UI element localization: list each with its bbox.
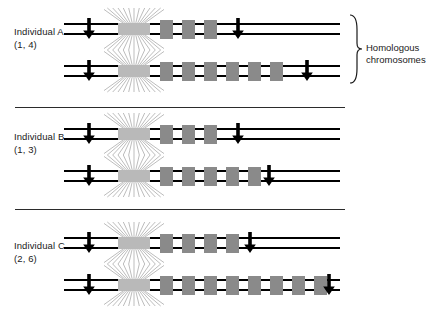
chromosome-a-chr-1 (64, 18, 340, 40)
repeat-band (292, 276, 305, 295)
repeat-band (204, 276, 217, 295)
repeat-band (182, 125, 195, 144)
individual-name: Individual C (14, 240, 65, 251)
repeat-band (204, 20, 217, 39)
centromere-hatch-icon (104, 6, 164, 52)
centromere-region (118, 65, 150, 77)
repeat-band (248, 167, 261, 186)
primer-arrow-right-icon (243, 232, 257, 254)
centromere-region (118, 170, 150, 182)
repeat-band (160, 125, 173, 144)
centromere-hatch-icon (104, 262, 164, 308)
repeat-band (226, 234, 239, 253)
repeat-band (226, 167, 239, 186)
section-divider (15, 209, 345, 210)
repeat-band (160, 276, 173, 295)
homologous-chromosomes-caption: Homologouschromosomes (366, 42, 426, 66)
chromosome-diagram: Individual A(1, 4)Individual B(1, 3)Indi… (0, 0, 440, 317)
centromere-hatch-icon (104, 111, 164, 157)
allele-pair: (1, 4) (14, 39, 94, 52)
primer-arrow-left-icon (82, 165, 96, 187)
primer-arrow-right-icon (231, 123, 245, 145)
individual-name: Individual A (14, 26, 64, 37)
primer-arrow-left-icon (82, 274, 96, 296)
repeat-band (160, 234, 173, 253)
primer-arrow-left-icon (82, 60, 96, 82)
repeat-band (226, 276, 239, 295)
repeat-band (226, 62, 239, 81)
chromosome-b-chr-1 (64, 123, 340, 145)
primer-arrow-left-icon (82, 232, 96, 254)
primer-arrow-right-icon (322, 274, 336, 296)
primer-arrow-right-icon (231, 18, 245, 40)
centromere-region (118, 128, 150, 140)
chromosome-c-chr-1 (64, 232, 340, 254)
repeat-band (160, 62, 173, 81)
group-individual-b: Individual B(1, 3) (0, 113, 440, 209)
centromere-hatch-icon (104, 153, 164, 199)
chromosome-a-chr-2 (64, 60, 340, 82)
centromere-region (118, 237, 150, 249)
individual-name: Individual B (14, 131, 64, 142)
section-divider (15, 107, 345, 108)
repeat-band (248, 276, 261, 295)
repeat-band (204, 167, 217, 186)
centromere-region (118, 23, 150, 35)
repeat-band (182, 167, 195, 186)
repeat-band (270, 276, 283, 295)
homologous-brace-icon (348, 13, 364, 89)
repeat-band (204, 125, 217, 144)
repeat-band (182, 276, 195, 295)
centromere-region (118, 279, 150, 291)
repeat-band (160, 20, 173, 39)
repeat-band (160, 167, 173, 186)
primer-arrow-left-icon (82, 123, 96, 145)
primer-arrow-left-icon (82, 18, 96, 40)
repeat-band (270, 62, 283, 81)
caption-line-1: Homologous (366, 42, 426, 54)
repeat-band (204, 62, 217, 81)
repeat-band (182, 62, 195, 81)
centromere-hatch-icon (104, 220, 164, 266)
chromosome-c-chr-2 (64, 274, 340, 296)
repeat-band (182, 20, 195, 39)
centromere-hatch-icon (104, 48, 164, 94)
allele-pair: (2, 6) (14, 253, 94, 266)
repeat-band (248, 62, 261, 81)
primer-arrow-right-icon (300, 60, 314, 82)
chromosome-b-chr-2 (64, 165, 340, 187)
primer-arrow-right-icon (262, 165, 276, 187)
group-individual-c: Individual C(2, 6) (0, 222, 440, 317)
caption-line-2: chromosomes (366, 54, 426, 66)
allele-pair: (1, 3) (14, 144, 94, 157)
repeat-band (204, 234, 217, 253)
repeat-band (182, 234, 195, 253)
